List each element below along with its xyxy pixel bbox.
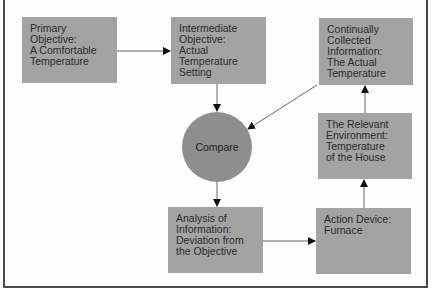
node-text-line: the Objective	[176, 246, 263, 257]
node-text-line: Temperature	[30, 56, 117, 67]
arrow-collected-to-compare	[248, 85, 317, 129]
node-analysis-information: Analysis of Information: Deviation from …	[168, 207, 263, 273]
node-intermediate-objective: Intermediate Objective: Actual Temperatu…	[171, 17, 266, 84]
node-text-line: Setting	[179, 67, 266, 78]
node-text-line: Furnace	[324, 225, 411, 236]
node-collected-information: Continually Collected Information: The A…	[319, 18, 413, 85]
node-text-line: Temperature	[327, 68, 413, 79]
node-primary-objective: Primary Objective: A Comfortable Tempera…	[22, 17, 117, 83]
node-relevant-environment: The Relevant Environment: Temperature of…	[318, 113, 412, 179]
node-action-device: Action Device: Furnace	[316, 208, 411, 274]
node-text-line: of the House	[326, 152, 412, 163]
node-text-line: Compare	[195, 141, 238, 153]
node-compare: Compare	[182, 112, 252, 182]
